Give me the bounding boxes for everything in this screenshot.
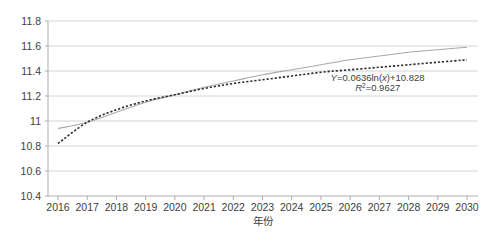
- x-axis-tick-label: 2018: [105, 201, 129, 213]
- y-axis-tick-label: 11.8: [21, 15, 41, 27]
- gridlines-group: [45, 21, 478, 196]
- x-axis-tick-label: 2027: [368, 201, 392, 213]
- x-axis-title: 年份: [253, 215, 274, 227]
- x-axis-tick-label: 2017: [76, 201, 100, 213]
- x-axis-tick-label: 2028: [397, 201, 421, 213]
- x-axis-tick-label: 2026: [338, 201, 362, 213]
- x-axis-tick-label: 2030: [455, 201, 479, 213]
- x-axis-tick-label: 2019: [134, 201, 158, 213]
- y-axis-tick-label: 10.4: [21, 190, 42, 202]
- x-axis-tick-label: 2016: [46, 201, 70, 213]
- r-squared-annotation: R2=0.9627: [355, 82, 400, 94]
- x-axis-tick-label: 2020: [163, 201, 187, 213]
- chart-container: 10.410.610.81111.211.411.611.8 201620172…: [0, 0, 485, 241]
- y-axis-tick-label: 11.2: [21, 90, 41, 102]
- x-axis-tick-label: 2023: [251, 201, 275, 213]
- x-axis-tick-label: 2029: [426, 201, 450, 213]
- y-axis-tick-label: 11.4: [21, 65, 41, 77]
- x-axis-tick-label: 2024: [280, 201, 304, 213]
- logarithmic-trend-line-chart: 10.410.610.81111.211.411.611.8 201620172…: [0, 0, 485, 241]
- x-axis-tick-labels: 2016201720182019202020212022202320242025…: [46, 201, 479, 213]
- x-axis-tick-label: 2021: [192, 201, 216, 213]
- x-axis-tick-label: 2025: [309, 201, 333, 213]
- y-axis-tick-labels: 10.410.610.81111.211.411.611.8: [21, 15, 42, 202]
- y-axis-tick-label: 11.6: [21, 40, 41, 52]
- x-axis-tick-marks: [58, 196, 467, 200]
- y-axis-tick-label: 10.8: [21, 140, 42, 152]
- series-line-actual: [58, 47, 467, 128]
- x-axis-tick-label: 2022: [222, 201, 246, 213]
- y-axis-tick-label: 11: [30, 115, 41, 127]
- r-value: =0.9627: [366, 82, 401, 93]
- y-axis-tick-label: 10.6: [21, 165, 42, 177]
